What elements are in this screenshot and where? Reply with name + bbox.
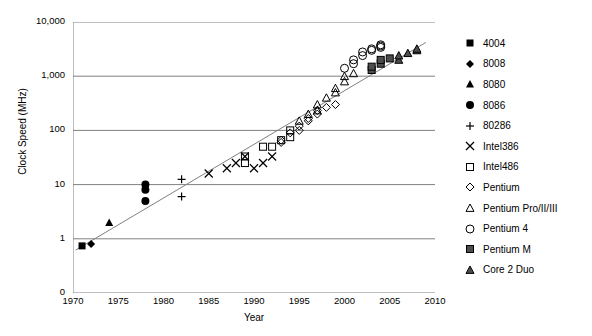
data-point (404, 49, 412, 56)
y-tick-label: 10 (0, 179, 65, 189)
data-point (386, 55, 393, 62)
series-8086 (141, 181, 149, 205)
filled-square-icon (461, 36, 479, 50)
y-tick-label: 1 (0, 233, 65, 243)
data-point (79, 242, 86, 249)
legend-item[interactable]: 4004 (461, 33, 589, 54)
y-tick-label: 1,000 (0, 70, 65, 80)
data-point (232, 159, 240, 167)
x-tick-label: 1970 (53, 296, 93, 306)
data-point (141, 181, 149, 189)
chart-legend: 400480088080808680286Intel386Intel486Pen… (461, 33, 589, 280)
legend-item[interactable]: Pentium Pro/II/III (461, 198, 589, 219)
x-tick-label: 1975 (98, 296, 138, 306)
legend-label: Pentium Pro/II/III (483, 203, 557, 214)
open-diamond-icon (461, 180, 479, 194)
legend-label: Intel386 (483, 141, 519, 152)
filled-diamond-icon (461, 57, 479, 71)
legend-label: 8080 (483, 79, 505, 90)
data-point (268, 152, 276, 160)
data-point (241, 160, 248, 167)
data-point (178, 193, 186, 201)
data-point (260, 143, 267, 150)
plot-area (73, 22, 435, 293)
filled-triangle-dark-icon (461, 263, 479, 277)
legend-item[interactable]: 80286 (461, 115, 589, 136)
legend-item[interactable]: Intel486 (461, 157, 589, 178)
y-axis-tick-labels: 01101001,00010,000 (0, 0, 69, 336)
data-point (341, 77, 349, 84)
x-tick-label: 1995 (279, 296, 319, 306)
chart-canvas (73, 22, 435, 293)
data-point (304, 117, 312, 125)
x-tick-label: 1990 (234, 296, 274, 306)
legend-label: 4004 (483, 38, 505, 49)
x-axis-tick-labels: 197019751980198519901995200020052010 (0, 296, 592, 310)
legend-item[interactable]: 8080 (461, 74, 589, 95)
data-point (377, 56, 384, 63)
filled-triangle-icon (461, 77, 479, 91)
y-tick-label: 10,000 (0, 16, 65, 26)
data-point (341, 64, 349, 72)
y-tick-label: 100 (0, 124, 65, 134)
legend-label: 8008 (483, 58, 505, 69)
x-tick-label: 1985 (189, 296, 229, 306)
filled-circle-icon (461, 98, 479, 112)
data-point (331, 101, 339, 109)
legend-label: 80286 (483, 120, 511, 131)
series-4004 (79, 242, 86, 249)
open-triangle-icon (461, 201, 479, 215)
data-point (105, 218, 113, 225)
data-point (178, 175, 186, 183)
data-point (322, 103, 330, 111)
series-8080 (105, 218, 113, 225)
legend-item[interactable]: 8008 (461, 54, 589, 75)
legend-label: Intel486 (483, 161, 519, 172)
series-8008 (87, 240, 95, 248)
legend-item[interactable]: Pentium M (461, 239, 589, 260)
filled-square-gray-icon (461, 242, 479, 256)
open-square-icon (461, 160, 479, 174)
legend-label: Pentium (483, 182, 520, 193)
legend-label: Pentium 4 (483, 223, 528, 234)
plus-icon (461, 119, 479, 133)
data-point (269, 143, 276, 150)
data-point (368, 63, 375, 70)
legend-label: 8086 (483, 100, 505, 111)
data-point (223, 164, 231, 172)
data-point (395, 52, 403, 59)
series-intel386 (205, 152, 276, 177)
data-point (350, 69, 358, 76)
x-axis-title: Year (73, 312, 435, 323)
open-circle-icon (461, 222, 479, 236)
data-point (250, 164, 258, 172)
data-point (87, 240, 95, 248)
chart-page: Clock Speed (MHz) 01101001,00010,000 197… (0, 0, 592, 336)
x-tick-label: 2000 (325, 296, 365, 306)
series-pentium-pro-ii-iii (295, 69, 357, 124)
legend-label: Core 2 Duo (483, 264, 534, 275)
x-tick-label: 1980 (144, 296, 184, 306)
series-core-2-duo (395, 45, 421, 63)
legend-item[interactable]: Pentium (461, 177, 589, 198)
cross-icon (461, 139, 479, 153)
legend-item[interactable]: Core 2 Duo (461, 260, 589, 281)
x-tick-label: 2005 (370, 296, 410, 306)
series-80286 (178, 175, 186, 200)
legend-item[interactable]: Intel386 (461, 136, 589, 157)
legend-label: Pentium M (483, 244, 531, 255)
x-tick-label: 2010 (415, 296, 455, 306)
data-point (259, 159, 267, 167)
legend-item[interactable]: Pentium 4 (461, 218, 589, 239)
legend-item[interactable]: 8086 (461, 95, 589, 116)
data-point (141, 197, 149, 205)
